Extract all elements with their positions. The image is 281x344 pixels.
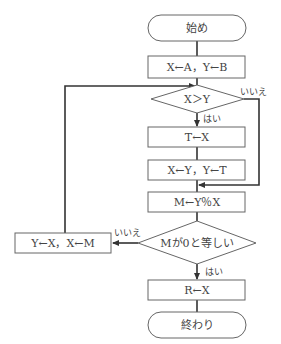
cond2-yes-label: はい [205, 267, 223, 277]
flowchart: 始め X←A，Y←B X＞Y いいえ はい T←X X←Y，Y←T M←Y％X … [0, 0, 281, 344]
swap-label: X←Y，Y←T [167, 164, 227, 177]
result-label: R←X [184, 284, 209, 297]
cond2-no-label: いいえ [114, 228, 141, 238]
cond2-label: Mが0と等しい [160, 236, 233, 250]
end-label: 終わり [181, 318, 214, 332]
loop-label: Y←X，X←M [30, 237, 95, 250]
cond1-label: X＞Y [184, 93, 211, 106]
t-label: T←X [185, 131, 210, 144]
cond1-no-label: いいえ [240, 87, 267, 97]
mod-label: M←Y％X [174, 196, 221, 209]
start-label: 始め [186, 21, 208, 35]
init-label: X←A，Y←B [167, 61, 228, 74]
cond1-yes-label: はい [203, 114, 221, 124]
